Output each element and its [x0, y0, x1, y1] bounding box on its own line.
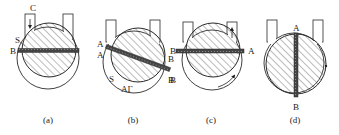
vane-blade [294, 33, 298, 97]
label-b: B [170, 46, 176, 56]
rotation-marker-icon [325, 65, 327, 67]
label-b: B [293, 102, 299, 112]
label-b-lower: B [170, 75, 176, 85]
label-s: S [109, 74, 114, 84]
vane-blade [18, 49, 79, 53]
vane-blade [176, 49, 244, 53]
rotor [111, 28, 165, 82]
label-a-upper: A [97, 39, 104, 49]
label-a: A [248, 46, 255, 56]
panel-a: C S B (a) [10, 3, 79, 125]
label-a: A [293, 23, 300, 33]
caption-c: (c) [206, 115, 216, 125]
label-c: C [30, 3, 36, 13]
label-a-gamma: AΓ [121, 84, 133, 94]
label-s: S [15, 35, 20, 45]
vane-pump-diagram: C S B (a) A A B B S AΓ (b) B B [0, 0, 339, 135]
caption-a: (a) [43, 115, 53, 125]
label-b: B [10, 46, 16, 56]
caption-d: (d) [290, 115, 301, 125]
panel-d: A B (d) [264, 20, 327, 125]
panel-b: A A B B S AΓ (b) [97, 20, 174, 125]
caption-b: (b) [128, 115, 139, 125]
panel-c: B B A (c) [170, 22, 255, 125]
label-a-lower: A [97, 50, 104, 60]
